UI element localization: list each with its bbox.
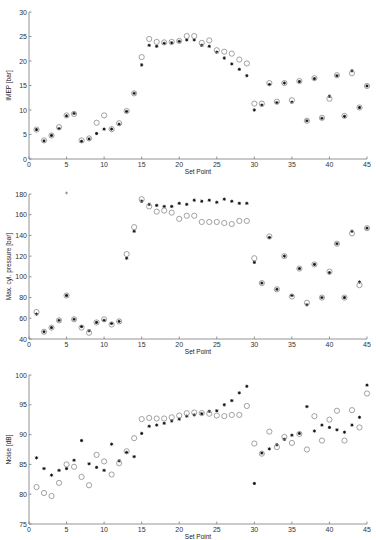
x-tick-label: 30 xyxy=(250,526,258,533)
data-point-star xyxy=(80,439,83,442)
data-point-circle xyxy=(192,213,197,218)
x-axis-title: Set Point xyxy=(185,348,212,355)
data-point-circle xyxy=(222,220,227,225)
data-point-circle xyxy=(154,416,159,421)
data-point-star xyxy=(268,447,271,450)
y-tick-label: 120 xyxy=(15,253,27,260)
data-point-star xyxy=(238,202,241,205)
data-point-star xyxy=(87,137,90,140)
data-point-star xyxy=(95,466,98,469)
data-point-circle xyxy=(94,452,99,457)
data-point-circle xyxy=(222,49,227,54)
data-point-circle xyxy=(342,438,347,443)
data-point-circle xyxy=(222,414,227,419)
data-point-star xyxy=(230,399,233,402)
x-tick-label: 5 xyxy=(65,526,69,533)
data-point-circle xyxy=(154,39,159,44)
y-axis-title: IMEP [bar] xyxy=(5,70,13,101)
data-point-star xyxy=(223,198,226,201)
x-axis-title: Set Point xyxy=(185,168,212,175)
y-tick-label: 140 xyxy=(15,232,27,239)
x-tick-label: 15 xyxy=(138,341,146,348)
data-point-star xyxy=(50,474,53,477)
x-tick-label: 45 xyxy=(363,526,371,533)
x-tick-label: 0 xyxy=(27,526,31,533)
data-point-star xyxy=(110,443,113,446)
y-tick-label: 40 xyxy=(19,336,27,343)
data-point-star xyxy=(103,128,106,131)
data-point-star xyxy=(155,204,158,207)
data-point-circle xyxy=(147,415,152,420)
star-series xyxy=(35,384,369,486)
data-point-star xyxy=(320,296,323,299)
data-point-circle xyxy=(244,218,249,223)
data-point-star xyxy=(343,115,346,118)
x-tick-label: 25 xyxy=(213,526,221,533)
data-point-star xyxy=(57,319,60,322)
data-point-star xyxy=(230,200,233,203)
y-tick-label: 80 xyxy=(19,294,27,301)
x-tick-label: 45 xyxy=(363,341,371,348)
data-point-circle xyxy=(207,219,212,224)
data-point-circle xyxy=(252,441,257,446)
data-point-star xyxy=(305,405,308,408)
data-point-star xyxy=(163,205,166,208)
data-point-circle xyxy=(177,413,182,418)
data-point-star xyxy=(185,203,188,206)
x-tick-label: 10 xyxy=(100,526,108,533)
data-point-star xyxy=(275,288,278,291)
data-point-star xyxy=(208,199,211,202)
data-point-star xyxy=(35,128,38,131)
data-point-star xyxy=(350,423,353,426)
data-point-circle xyxy=(229,221,234,226)
data-point-circle xyxy=(267,429,272,434)
data-point-star xyxy=(245,385,248,388)
x-tick-label: 45 xyxy=(363,161,371,168)
data-point-star xyxy=(215,409,218,412)
data-point-star xyxy=(245,202,248,205)
data-point-star xyxy=(320,423,323,426)
x-tick-label: 10 xyxy=(100,341,108,348)
data-point-star xyxy=(290,434,293,437)
data-point-circle xyxy=(334,408,339,413)
data-point-star xyxy=(253,261,256,264)
y-tick-label: 85 xyxy=(19,461,27,468)
data-point-circle xyxy=(79,474,84,479)
data-point-star xyxy=(238,391,241,394)
x-tick-label: 25 xyxy=(213,161,221,168)
data-point-circle xyxy=(237,57,242,62)
data-point-star xyxy=(238,68,241,71)
data-point-circle xyxy=(364,391,369,396)
data-point-star xyxy=(193,199,196,202)
data-point-star xyxy=(343,431,346,434)
data-point-star xyxy=(178,202,181,205)
data-point-circle xyxy=(327,417,332,422)
circle-series xyxy=(34,33,370,143)
data-point-star xyxy=(365,384,368,387)
data-point-circle xyxy=(124,251,129,256)
data-point-star xyxy=(358,416,361,419)
data-point-star xyxy=(223,403,226,406)
data-point-star xyxy=(35,456,38,459)
data-point-star xyxy=(155,45,158,48)
imep-chart: 051015202530051015202530354045Set PointI… xyxy=(5,9,371,176)
data-point-circle xyxy=(139,417,144,422)
data-point-star xyxy=(95,132,98,135)
x-tick-label: 35 xyxy=(288,526,296,533)
data-point-star xyxy=(335,242,338,245)
data-point-circle xyxy=(252,101,257,106)
y-tick-label: 90 xyxy=(19,431,27,438)
y-tick-label: 80 xyxy=(19,491,27,498)
figure-canvas: 051015202530051015202530354045Set PointI… xyxy=(0,0,376,540)
data-point-star xyxy=(140,63,143,66)
x-tick-label: 20 xyxy=(175,526,183,533)
data-point-circle xyxy=(64,462,69,467)
data-point-star xyxy=(313,263,316,266)
data-point-circle xyxy=(192,33,197,38)
data-point-star xyxy=(298,432,301,435)
x-tick-label: 40 xyxy=(326,526,334,533)
data-point-circle xyxy=(162,416,167,421)
data-point-circle xyxy=(102,459,107,464)
data-point-star xyxy=(215,201,218,204)
x-tick-label: 25 xyxy=(213,341,221,348)
